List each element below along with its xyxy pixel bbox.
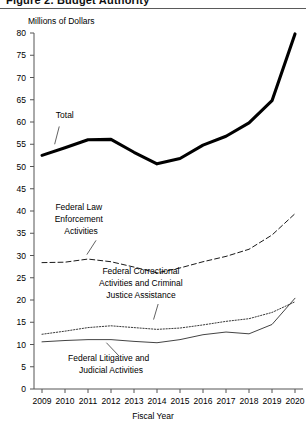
y-tick-label: 70 (17, 73, 27, 83)
series-line (42, 302, 295, 334)
y-tick-label: 20 (17, 295, 27, 305)
chart-page: Figure 2. Budget Authority Millions of D… (0, 0, 306, 429)
series-annotation: Judicial Activities (79, 365, 143, 375)
y-tick-label: 60 (17, 117, 27, 127)
y-tick-label: 25 (17, 273, 27, 283)
series-line (42, 34, 295, 164)
chart-canvas: 0510152025303540455055606570758020092010… (0, 0, 306, 429)
x-tick-label: 2014 (148, 396, 167, 406)
series-annotation: Federal Litigative and (68, 353, 150, 363)
x-tick-label: 2009 (33, 396, 52, 406)
x-tick-label: 2015 (171, 396, 190, 406)
y-tick-label: 75 (17, 50, 27, 60)
series-annotation: Justice Assistance (106, 290, 176, 300)
y-tick-label: 35 (17, 228, 27, 238)
y-tick-label: 40 (17, 206, 27, 216)
y-tick-label: 80 (17, 28, 27, 38)
y-tick-label: 45 (17, 184, 27, 194)
series-line (42, 298, 295, 343)
series-annotation: Activities and Criminal (99, 278, 183, 288)
series-annotation: Federal Correctional (102, 266, 179, 276)
y-tick-label: 15 (17, 317, 27, 327)
y-tick-label: 50 (17, 162, 27, 172)
series-annotation: Enforcement (55, 214, 104, 224)
x-tick-label: 2012 (102, 396, 121, 406)
y-tick-label: 65 (17, 95, 27, 105)
y-tick-label: 30 (17, 251, 27, 261)
x-tick-label: 2020 (286, 396, 305, 406)
y-tick-label: 55 (17, 139, 27, 149)
x-tick-label: 2013 (125, 396, 144, 406)
x-tick-label: 2010 (56, 396, 75, 406)
y-tick-label: 5 (21, 362, 26, 372)
y-tick-label: 10 (17, 340, 27, 350)
line-chart: 0510152025303540455055606570758020092010… (0, 0, 306, 429)
x-tick-label: 2019 (263, 396, 282, 406)
x-tick-label: 2018 (240, 396, 259, 406)
x-tick-label: 2016 (194, 396, 213, 406)
annotation-leader-line (154, 304, 159, 320)
annotation-leader-line (55, 126, 60, 144)
x-tick-label: 2011 (79, 396, 98, 406)
x-tick-label: 2017 (217, 396, 236, 406)
series-annotation: Federal Law (55, 202, 103, 212)
series-annotation: Activities (64, 226, 98, 236)
y-tick-label: 0 (21, 384, 26, 394)
annotation-leader-line (87, 240, 96, 254)
series-annotation: Total (56, 110, 74, 120)
